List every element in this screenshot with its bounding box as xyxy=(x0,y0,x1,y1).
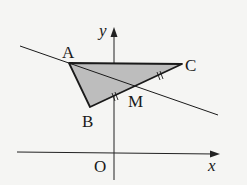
label-c: C xyxy=(185,56,196,75)
label-m: M xyxy=(128,92,143,111)
label-origin: O xyxy=(94,157,106,176)
y-axis-arrow-icon xyxy=(111,27,118,37)
triangle-abc xyxy=(69,63,182,107)
x-axis xyxy=(17,152,215,154)
label-x-axis: x xyxy=(207,156,216,175)
geometry-figure: A C B M O x y xyxy=(0,0,247,185)
diagram: A C B M O x y xyxy=(0,0,247,185)
label-b: B xyxy=(82,112,93,131)
label-a: A xyxy=(62,43,75,62)
label-y-axis: y xyxy=(97,21,107,40)
